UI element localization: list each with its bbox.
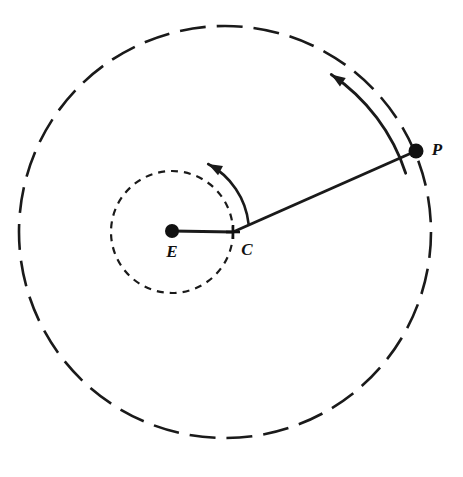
earth-point-marker xyxy=(165,224,179,238)
planet-point-marker xyxy=(409,144,424,159)
epicycle-diagram: E C P xyxy=(0,0,463,477)
planet-label: P xyxy=(431,140,443,159)
earth-label: E xyxy=(165,242,177,261)
epicycle-center-label: C xyxy=(241,240,253,259)
diagram-canvas: E C P xyxy=(0,0,463,477)
diagram-background xyxy=(0,0,463,477)
earth-to-center-line xyxy=(172,231,233,232)
